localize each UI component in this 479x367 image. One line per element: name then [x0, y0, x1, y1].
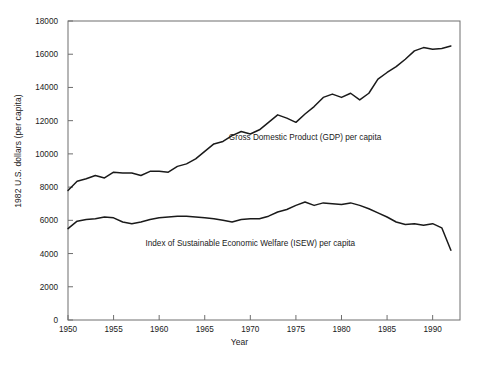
x-axis-tick-label: 1970 — [241, 325, 259, 334]
plot-area — [0, 0, 479, 367]
y-axis-tick-label: 18000 — [0, 17, 58, 26]
y-axis-tick-label: 8000 — [0, 183, 58, 192]
x-axis-tick-label: 1960 — [150, 325, 168, 334]
series-line-gdp — [68, 46, 451, 191]
x-axis-tick-label: 1965 — [196, 325, 214, 334]
y-axis-tick-label: 16000 — [0, 50, 58, 59]
y-axis-tick-label: 10000 — [0, 149, 58, 158]
plot-frame — [68, 21, 460, 320]
y-axis-tick-label: 2000 — [0, 282, 58, 291]
x-axis-tick-label: 1950 — [59, 325, 77, 334]
y-axis-tick-label: 6000 — [0, 216, 58, 225]
x-axis-tick-label: 1985 — [378, 325, 396, 334]
series-annotation-gdp: Gross Domestic Product (GDP) per capita — [229, 133, 381, 142]
x-axis-tick-label: 1975 — [287, 325, 305, 334]
y-axis-tick-label: 0 — [0, 316, 58, 325]
series-annotation-isew: Index of Sustainable Economic Welfare (I… — [145, 238, 355, 247]
x-axis-tick-label: 1955 — [104, 325, 122, 334]
chart-container: 1982 U.S. dollars (per capita) Year 0200… — [0, 0, 479, 367]
x-axis-tick-label: 1990 — [424, 325, 442, 334]
x-axis-tick-label: 1980 — [332, 325, 350, 334]
y-axis-tick-label: 4000 — [0, 249, 58, 258]
y-axis-tick-label: 14000 — [0, 83, 58, 92]
y-axis-tick-label: 12000 — [0, 116, 58, 125]
